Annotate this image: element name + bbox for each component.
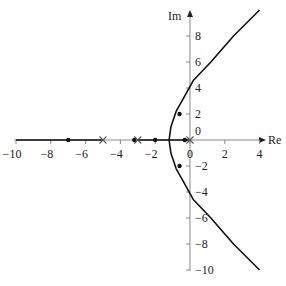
y-tick-label: 0 bbox=[195, 124, 201, 138]
x-axis-label: Re bbox=[268, 133, 281, 147]
x-tick-label: 4 bbox=[257, 147, 263, 161]
locus-branch-lower-branch bbox=[169, 140, 260, 270]
x-tick-label: −4 bbox=[110, 147, 123, 161]
direction-marker-icon bbox=[66, 138, 70, 142]
x-tick-label: −6 bbox=[75, 147, 88, 161]
x-tick-label: −8 bbox=[40, 147, 53, 161]
direction-marker-icon bbox=[177, 164, 181, 168]
y-tick-label: 4 bbox=[195, 81, 201, 95]
direction-marker-icon bbox=[153, 138, 157, 142]
y-tick-label: −10 bbox=[195, 263, 214, 277]
direction-marker-icon bbox=[183, 138, 187, 142]
y-axis-arrow-icon bbox=[187, 10, 193, 17]
y-axis-label: Im bbox=[168, 9, 182, 23]
y-tick-label: −2 bbox=[195, 159, 208, 173]
y-tick-label: 6 bbox=[195, 55, 201, 69]
x-tick-label: −10 bbox=[3, 147, 22, 161]
root-locus-chart: −10−8−6−4−2024−10−8−6−4−202468ReIm bbox=[0, 0, 286, 286]
x-tick-label: 2 bbox=[222, 147, 228, 161]
y-tick-label: −8 bbox=[195, 237, 208, 251]
x-tick-label: 0 bbox=[187, 147, 193, 161]
direction-marker-icon bbox=[177, 112, 181, 116]
y-tick-label: −4 bbox=[195, 185, 208, 199]
locus-branch-upper-branch bbox=[169, 10, 260, 140]
y-tick-label: 8 bbox=[195, 29, 201, 43]
x-tick-label: −2 bbox=[145, 147, 158, 161]
y-tick-label: 2 bbox=[195, 107, 201, 121]
